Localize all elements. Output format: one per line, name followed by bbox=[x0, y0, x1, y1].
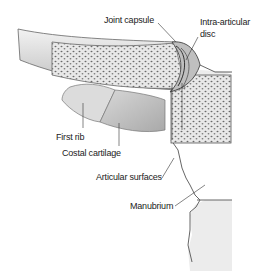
label-costal-cartilage: Costal cartilage bbox=[62, 148, 121, 158]
label-manubrium: Manubrium bbox=[130, 201, 173, 211]
label-articular-surfaces: Articular surfaces bbox=[96, 172, 162, 182]
label-intra-articular-disc-1: Intra-articular bbox=[200, 17, 250, 27]
label-joint-capsule: Joint capsule bbox=[104, 15, 154, 25]
anatomy-illustration bbox=[0, 0, 271, 271]
label-first-rib: First rib bbox=[56, 132, 84, 142]
clavicle bbox=[18, 29, 185, 90]
label-intra-articular-disc-2: disc bbox=[200, 29, 215, 39]
diagram-canvas: Joint capsule Intra-articular disc First… bbox=[0, 0, 271, 271]
manubrium bbox=[171, 65, 232, 271]
